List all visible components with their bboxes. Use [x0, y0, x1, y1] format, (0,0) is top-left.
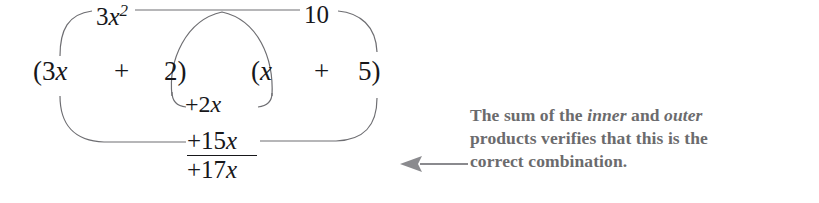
first-product-label: 3x2: [96, 2, 128, 29]
partial-sum-label: +15x: [187, 128, 237, 153]
expression-term-open-x: (x: [251, 58, 272, 85]
caption-text: The sum of the inner and outerproducts v…: [470, 104, 800, 173]
caption-line1-pre: The sum of the: [470, 105, 587, 125]
total-middle-term-label: +17x: [187, 157, 237, 182]
inner-left-hook: [172, 92, 186, 107]
inner-product-label: +2x: [185, 92, 221, 116]
expression-term-2-close: 2): [164, 58, 187, 85]
outer-product-curve-right: [338, 11, 377, 52]
expression-term-5-close: 5): [358, 58, 381, 85]
caption-emphasis-outer: outer: [664, 105, 702, 125]
expression-term-open-3x: (3x: [33, 58, 67, 85]
left-bracket-down-curve: [60, 96, 186, 142]
caption-line1-mid: and: [627, 105, 664, 125]
right-bracket-down-curve: [260, 98, 377, 141]
expression-term-plus-first: +: [114, 58, 129, 85]
caption-line3: correct combination.: [470, 151, 627, 171]
caption-line2: products verifies that this is the: [470, 128, 708, 148]
expression-term-plus-second: +: [314, 58, 329, 85]
caption-pointer-arrow-icon: [400, 152, 470, 176]
caption-emphasis-inner: inner: [587, 105, 626, 125]
inner-right-hook: [258, 93, 272, 107]
first-product-curve: [60, 11, 92, 56]
outer-product-label: 10: [304, 2, 329, 27]
foil-diagram: 3x2 10 +2x +15x +17x (3x + 2) (x + 5) Th…: [0, 0, 819, 203]
